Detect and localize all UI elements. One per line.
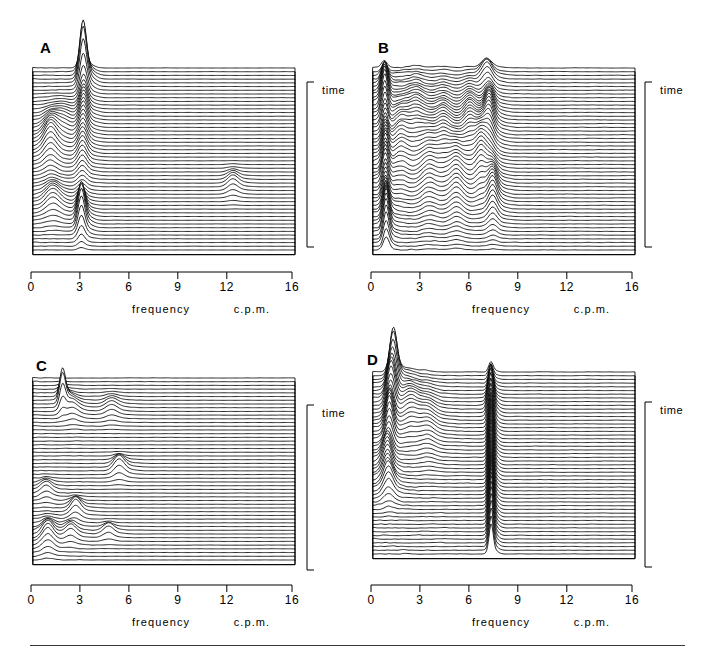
spectrum-trace [373,62,635,84]
panel-plot-d [0,0,716,652]
x-axis-caption: frequency [472,304,530,315]
x-tick-label-3: 3 [76,594,83,606]
spectrum-trace [33,186,295,210]
spectrum-trace [373,508,635,551]
spectrum-trace [373,331,635,388]
spectrum-trace [33,459,295,476]
x-axis-caption: frequency [132,617,190,628]
spectrum-trace [33,553,295,561]
spectrum-trace [33,448,295,453]
spectrum-trace [33,454,295,468]
time-axis-bracket [307,82,314,247]
spectrum-trace [373,456,635,511]
spectrum-trace [33,39,295,92]
spectrum-trace [33,84,295,110]
spectrum-trace [33,90,295,117]
spectrum-trace [33,182,295,217]
spectrum-trace [373,80,635,117]
x-tick-label-12: 12 [560,594,574,606]
spectrum-trace [33,473,295,483]
x-axis-caption: frequency [132,304,190,315]
spectrum-trace [373,421,635,473]
spectrum-trace [33,109,295,135]
spectrum-trace [373,128,635,158]
spectrum-trace [33,131,295,154]
spectrum-trace [33,378,295,383]
spectrum-trace [33,53,295,95]
spectrum-trace [373,329,635,380]
spectrum-trace [33,441,295,446]
spectrum-trace [33,505,295,520]
spectrum-trace [33,381,295,386]
spectrum-trace [373,145,635,177]
spectrum-trace [373,411,635,462]
frequency-axis [31,272,292,279]
spectrum-trace [33,382,295,394]
spectrum-trace [33,170,295,184]
spectrum-trace [373,468,635,525]
spectrum-trace [373,476,635,533]
spectrum-trace [33,383,295,412]
spectrum-trace [373,429,635,481]
spectrum-trace [373,347,635,395]
spectrum-trace [33,101,295,128]
spectrum-trace [33,372,295,408]
spectrum-trace [33,454,295,461]
spectrum-trace [33,512,295,524]
spectrum-trace [33,520,295,538]
spectrum-trace [33,20,295,84]
time-axis-bracket [645,402,652,567]
x-tick-label-9: 9 [174,281,181,293]
spectrum-trace [373,524,635,559]
x-tick-label-3: 3 [76,281,83,293]
spectrum-trace [373,395,635,440]
spectrum-trace [33,26,295,87]
spectrum-trace [373,327,635,384]
spectrum-trace [33,465,295,479]
spectrum-trace [33,165,295,180]
spectrum-trace [33,105,295,132]
spectrum-trace [33,184,295,225]
spectrum-trace [33,527,295,546]
spectrum-trace [33,205,295,236]
spectrum-trace [33,118,295,143]
spectrum-trace [33,87,295,114]
spectrum-trace [373,400,635,447]
spectrum-trace [33,136,295,158]
spectrum-trace [373,364,635,411]
spectrum-trace [373,125,635,155]
spectrum-trace [33,65,295,98]
spectrum-trace [33,451,295,457]
spectrum-trace [373,66,635,106]
x-tick-label-16: 16 [285,281,299,293]
x-axis-unit-caption: c.p.m. [574,304,611,315]
spectrum-trace [373,64,635,102]
spectrum-trace [373,388,635,432]
spectrum-trace [373,353,635,399]
spectrum-trace [373,357,635,403]
spectrum-trace [33,215,295,239]
spectrum-trace [373,167,635,195]
spectrum-trace [33,496,295,505]
spectrum-trace [33,183,295,199]
spectrum-trace [373,365,635,414]
spectrum-trace [373,153,635,184]
x-tick-label-6: 6 [465,594,472,606]
panel-plot-b [0,0,716,652]
panel-letter-c: C [36,358,47,373]
x-tick-label-16: 16 [285,594,299,606]
spectrum-trace [373,62,635,99]
spectrum-trace [33,182,295,222]
spectrum-trace [373,118,635,147]
spectrum-trace [373,464,635,521]
spectrum-trace [33,114,295,140]
spectrum-trace [373,433,635,484]
spectrum-trace [373,113,635,143]
x-tick-label-16: 16 [625,594,639,606]
spectrum-trace [33,368,295,405]
spectrum-trace [373,403,635,451]
spectrum-trace [33,155,295,173]
spectrum-trace [373,481,635,536]
spectrum-trace [373,408,635,458]
spectrum-trace [373,372,635,421]
